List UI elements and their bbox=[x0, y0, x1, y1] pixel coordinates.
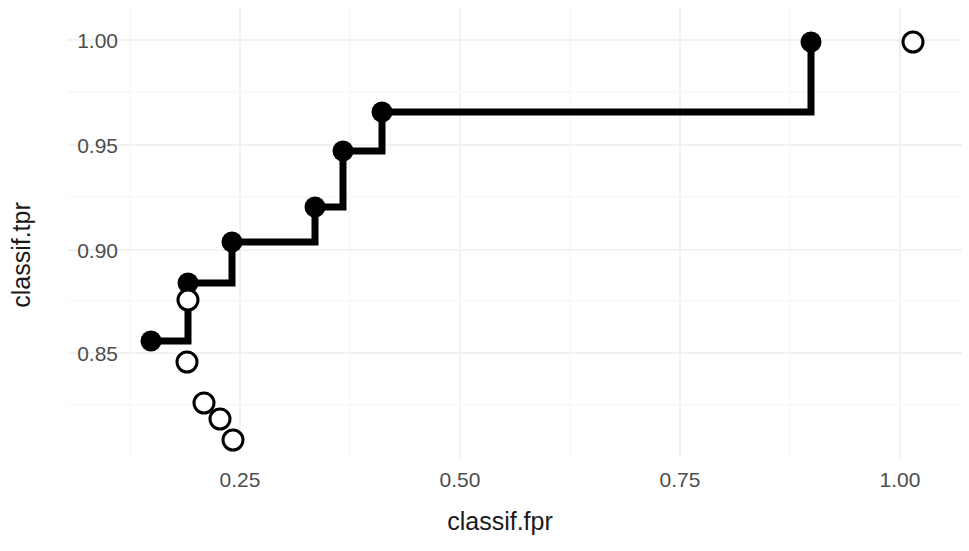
x-tick-label: 0.25 bbox=[220, 468, 261, 491]
data-point-open[interactable] bbox=[210, 409, 230, 429]
data-point-filled[interactable] bbox=[801, 32, 822, 53]
data-point-open[interactable] bbox=[223, 430, 243, 450]
data-point-filled[interactable] bbox=[305, 197, 326, 218]
x-tick-label: 0.50 bbox=[440, 468, 481, 491]
data-point-open[interactable] bbox=[903, 32, 923, 52]
y-tick-label: 0.95 bbox=[77, 134, 118, 157]
data-point-open[interactable] bbox=[194, 393, 214, 413]
x-tick-label: 1.00 bbox=[880, 468, 921, 491]
data-point-filled[interactable] bbox=[141, 331, 162, 352]
data-point-filled[interactable] bbox=[333, 141, 354, 162]
y-axis-title: classif.tpr bbox=[7, 202, 35, 308]
data-point-open[interactable] bbox=[177, 352, 197, 372]
plot-background bbox=[0, 0, 969, 551]
data-point-filled[interactable] bbox=[372, 102, 393, 123]
data-point-filled[interactable] bbox=[222, 232, 243, 253]
y-tick-label: 1.00 bbox=[77, 29, 118, 52]
roc-chart-svg: 1.00 0.95 0.90 0.85 0.25 0.50 0.75 1.00 … bbox=[0, 0, 969, 551]
x-axis-title: classif.fpr bbox=[447, 507, 553, 535]
roc-plot-panel: 1.00 0.95 0.90 0.85 0.25 0.50 0.75 1.00 … bbox=[0, 0, 969, 551]
x-tick-label: 0.75 bbox=[660, 468, 701, 491]
data-point-open[interactable] bbox=[178, 290, 198, 310]
y-tick-label: 0.90 bbox=[77, 239, 118, 262]
y-tick-label: 0.85 bbox=[77, 342, 118, 365]
